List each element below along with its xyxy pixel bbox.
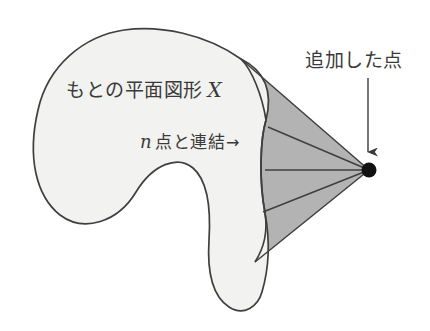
original-plane-figure-label-text: もとの平面図形 xyxy=(66,79,203,101)
shape-symbol-x: X xyxy=(203,78,223,102)
original-plane-figure-label: もとの平面図形X xyxy=(66,80,222,100)
connect-n-points-label: n点と連結→ xyxy=(140,133,240,151)
connect-label-text: 点と連結 xyxy=(155,132,225,152)
right-arrow-icon: → xyxy=(225,133,240,152)
original-plane-figure-shape xyxy=(33,29,268,311)
figure-canvas: もとの平面図形X n点と連結→ 追加した点 xyxy=(0,0,430,331)
added-point-label: 追加した点 xyxy=(305,51,403,70)
added-vertex-dot xyxy=(362,163,377,178)
connect-symbol-n: n xyxy=(140,131,155,152)
